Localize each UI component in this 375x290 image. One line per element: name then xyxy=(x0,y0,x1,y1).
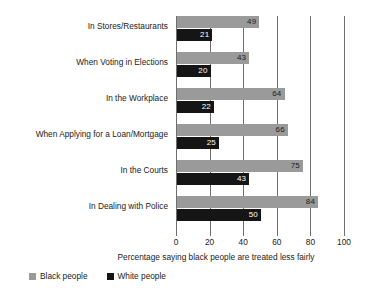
legend: Black people White people xyxy=(29,272,166,280)
bar-value-label: 21 xyxy=(200,31,209,39)
gridline-100 xyxy=(344,16,345,232)
tick-label: 80 xyxy=(306,238,315,246)
category-label: When Voting in Elections xyxy=(76,58,168,66)
tick-mark xyxy=(310,232,311,236)
bar-black-people: 43 xyxy=(177,52,249,64)
bar-group: 49 21 xyxy=(177,16,344,42)
legend-item-black-people: Black people xyxy=(29,272,88,280)
category-label: In the Courts xyxy=(120,166,168,174)
tick-label: 20 xyxy=(205,238,214,246)
bar-white-people: 50 xyxy=(177,209,261,221)
legend-swatch-icon xyxy=(107,273,114,280)
bar-value-label: 66 xyxy=(276,126,285,134)
bar-white-people: 43 xyxy=(177,173,249,185)
bar-black-people: 84 xyxy=(177,196,318,208)
plot-area: 49 21 43 20 64 22 66 xyxy=(176,16,344,232)
bar-group: 84 50 xyxy=(177,196,344,222)
tick-mark xyxy=(176,232,177,236)
bar-value-label: 64 xyxy=(272,90,281,98)
x-axis-title: Percentage saying black people are treat… xyxy=(0,253,372,261)
category-label: In the Workplace xyxy=(106,94,168,102)
bar-white-people: 22 xyxy=(177,101,214,113)
tick-label: 40 xyxy=(239,238,248,246)
bar-value-label: 84 xyxy=(306,198,315,206)
tick-mark xyxy=(344,232,345,236)
bar-black-people: 64 xyxy=(177,88,285,100)
bar-group: 43 20 xyxy=(177,52,344,78)
tick-mark xyxy=(277,232,278,236)
tick-mark xyxy=(243,232,244,236)
tick-label: 100 xyxy=(337,238,351,246)
legend-label: Black people xyxy=(40,272,88,280)
category-label: When Applying for a Loan/Mortgage xyxy=(36,130,168,138)
bar-white-people: 25 xyxy=(177,137,219,149)
legend-item-white-people: White people xyxy=(107,272,166,280)
bar-black-people: 75 xyxy=(177,160,303,172)
bar-value-label: 25 xyxy=(207,139,216,147)
tick-mark xyxy=(210,232,211,236)
category-label: In Dealing with Police xyxy=(89,202,168,210)
bar-chart: In Stores/Restaurants When Voting in Ele… xyxy=(0,0,375,290)
bar-black-people: 66 xyxy=(177,124,288,136)
bar-black-people: 49 xyxy=(177,16,259,28)
bar-group: 75 43 xyxy=(177,160,344,186)
legend-swatch-icon xyxy=(29,273,36,280)
bar-value-label: 75 xyxy=(291,162,300,170)
bar-value-label: 43 xyxy=(237,54,246,62)
bar-white-people: 21 xyxy=(177,29,212,41)
category-label: In Stores/Restaurants xyxy=(88,22,168,30)
bar-group: 64 22 xyxy=(177,88,344,114)
bar-value-label: 20 xyxy=(198,67,207,75)
bar-value-label: 49 xyxy=(247,18,256,26)
legend-label: White people xyxy=(118,272,166,280)
bar-value-label: 50 xyxy=(249,211,258,219)
bar-group: 66 25 xyxy=(177,124,344,150)
tick-label: 60 xyxy=(272,238,281,246)
tick-label: 0 xyxy=(174,238,179,246)
bar-white-people: 20 xyxy=(177,65,211,77)
category-axis: In Stores/Restaurants When Voting in Ele… xyxy=(0,16,172,232)
bar-value-label: 43 xyxy=(237,175,246,183)
value-axis: 0 20 40 60 80 100 xyxy=(176,232,344,254)
bar-value-label: 22 xyxy=(202,103,211,111)
